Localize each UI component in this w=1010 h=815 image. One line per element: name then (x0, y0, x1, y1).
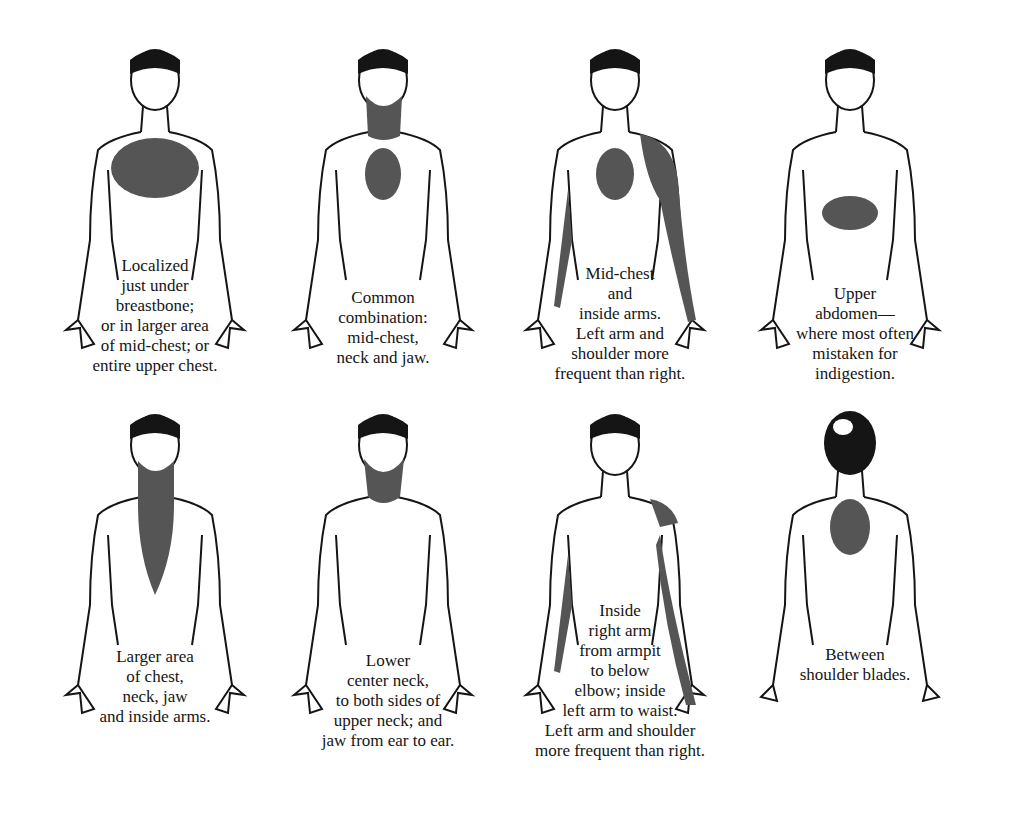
figure-panel-7: Inside right arm from armpit to below el… (500, 405, 740, 805)
pain-area-neck-jaw-chest (138, 461, 174, 595)
caption-panel-3: Mid-chest and inside arms. Left arm and … (510, 264, 730, 384)
pain-area-left-shoulder (650, 499, 678, 527)
pain-area-upper-chest (111, 138, 199, 198)
caption-panel-6: Lower center neck, to both sides of uppe… (273, 651, 503, 751)
pain-area-upper-abdomen (822, 196, 878, 230)
pain-area-between-shoulder-blades (830, 499, 870, 555)
pain-area-neck-jaw (366, 96, 402, 140)
figure-panel-3: Mid-chest and inside arms. Left arm and … (500, 40, 740, 440)
figure-panel-6: Lower center neck, to both sides of uppe… (268, 405, 508, 805)
head-back-hair (824, 411, 876, 475)
caption-panel-5: Larger area of chest, neck, jaw and insi… (55, 647, 255, 727)
caption-panel-4: Upper abdomen— where most often mistaken… (745, 284, 965, 384)
caption-panel-7: Inside right arm from armpit to below el… (505, 601, 735, 761)
figure-panel-8: Between shoulder blades. (735, 405, 975, 805)
pain-area-mid-chest (596, 148, 634, 200)
figure-panel-1: Localized just under breastbone; or in l… (40, 40, 280, 440)
pain-area-mid-chest (365, 148, 401, 200)
pain-area-lower-neck-jaw (364, 459, 404, 503)
back-body-illustration (735, 405, 975, 765)
caption-panel-8: Between shoulder blades. (745, 645, 965, 685)
figure-panel-4: Upper abdomen— where most often mistaken… (735, 40, 975, 440)
caption-panel-2: Common combination: mid-chest, neck and … (293, 288, 473, 368)
caption-panel-1: Localized just under breastbone; or in l… (55, 256, 255, 376)
figure-panel-5: Larger area of chest, neck, jaw and insi… (40, 405, 280, 805)
figure-panel-2: Common combination: mid-chest, neck and … (268, 40, 508, 440)
